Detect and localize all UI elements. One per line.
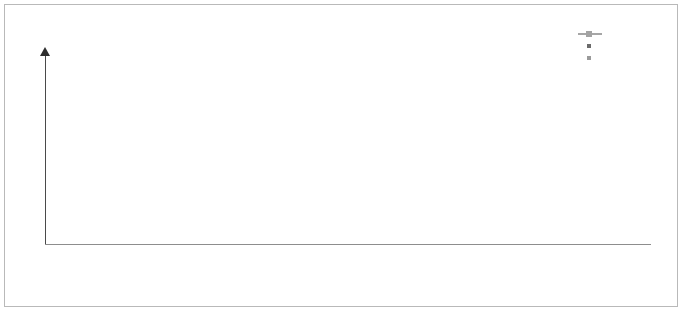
x-axis-line — [45, 244, 651, 245]
legend-marker-dot-icon — [578, 40, 602, 51]
plot-area — [46, 64, 628, 244]
series-lines — [46, 64, 628, 244]
chart-legend — [578, 28, 682, 64]
legend-item-government-spending — [578, 52, 682, 63]
legend-marker-line-square-icon — [578, 28, 602, 39]
legend-item-government-debt — [578, 28, 682, 39]
legend-item-government-revenue — [578, 40, 682, 51]
chart-page — [0, 0, 684, 312]
party-band-axis — [46, 272, 652, 298]
y-axis-arrow-icon — [40, 47, 50, 56]
legend-marker-dot-icon — [578, 52, 602, 63]
